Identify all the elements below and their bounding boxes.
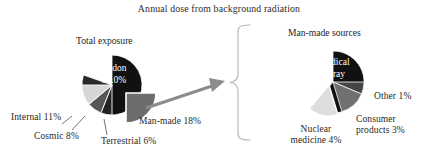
- label-internal: Internal 11%: [11, 112, 61, 123]
- label-terrestrial: Terrestrial 6%: [101, 136, 156, 147]
- leader-cosmic: [72, 116, 85, 130]
- radon-label: Radon: [102, 63, 127, 73]
- nuclear-line1: Nuclear: [301, 124, 332, 134]
- arrow-head: [209, 78, 225, 92]
- radiation-dose-figure: Annual dose from background radiation: [0, 0, 438, 162]
- leader-terrestrial: [104, 119, 107, 135]
- xray-label: X-ray: [323, 69, 345, 79]
- nuclear-line2: medicine 4%: [291, 135, 342, 145]
- left-pie-small-slices: [82, 85, 112, 115]
- connector-arrow: [146, 78, 225, 108]
- label-manmade: Man-made 18%: [139, 116, 201, 127]
- curly-brace: [230, 25, 250, 140]
- leader-internal: [62, 116, 72, 124]
- label-consumer-products: Consumer products 3%: [356, 114, 430, 136]
- right-pie-center-label: Medical X-ray: [306, 57, 362, 80]
- label-cosmic: Cosmic 8%: [34, 131, 79, 142]
- label-nuclear-medicine: Nuclear medicine 4%: [276, 124, 356, 146]
- brace-path: [230, 25, 250, 140]
- right-chart-heading: Man-made sources: [288, 27, 361, 38]
- consumer-line2: products 3%: [356, 125, 405, 135]
- left-pie-center-label: Radon 55.0%: [86, 63, 142, 86]
- medical-label: Medical: [318, 57, 349, 67]
- consumer-line1: Consumer: [356, 114, 396, 124]
- radon-value: 55.0%: [102, 75, 127, 85]
- left-chart-heading: Total exposure: [76, 35, 133, 46]
- label-other: Other 1%: [374, 91, 411, 102]
